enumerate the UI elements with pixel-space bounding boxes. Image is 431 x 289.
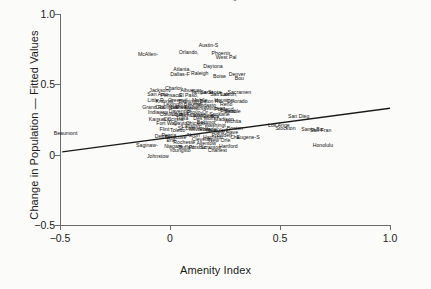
data-point-label: Stockton [275,126,295,131]
data-point-label: Colorado [227,99,248,104]
data-point-label: Austin-S [199,44,219,49]
x-tick [60,225,61,230]
x-axis-label: Amenity Index [0,264,431,276]
data-point-label: Saginaw- [136,143,158,148]
data-point-label: Erie [166,139,175,144]
data-point-label: West Pal [216,56,237,61]
data-point-label: Peoria [161,133,176,138]
y-axis-line [60,14,61,225]
data-point-label: San Dieg [288,115,309,120]
data-point-label: Harrisbu [203,136,223,141]
data-point-label: Bou [235,77,244,82]
data-point-label: Orlando, [179,50,199,55]
y-tick [55,14,60,15]
data-point-label: Daytona [203,64,222,69]
data-point-label: Las Vega [217,0,239,1]
x-tick-label: 0.5 [273,232,288,244]
x-tick-label: 0 [167,232,173,244]
data-point-label: Akron [186,133,200,138]
data-point-label: Johnstow [147,154,169,159]
data-point-label: San Fran [310,129,331,134]
data-point-label: Eugene-S [237,136,260,141]
data-point-label: Hartford [219,144,238,149]
y-tick [55,155,60,156]
data-point-label: Rocheste [173,140,195,145]
y-axis-label: Change in Population — Fitted Values [28,5,40,245]
data-point-label: Honolulu [313,143,333,148]
data-point-label: Little R [148,98,164,103]
y-tick-label: 1.0 [40,8,55,20]
y-tick-label: 0.5 [40,78,55,90]
y-tick-label: 0 [49,149,55,161]
data-point-label: Sacramen [227,91,251,96]
x-axis-line [60,225,390,226]
data-point-label: Lexingto [163,102,183,107]
x-tick [390,225,391,230]
data-point-label: Spokane [209,112,229,117]
scatter-plot-figure: Change in Population — Fitted Values Ame… [0,0,431,289]
data-point-label: Youngsto [169,149,190,154]
data-point-label: McAllen- [138,53,158,58]
data-point-label: Boston [227,126,243,131]
data-point-label: Beaumont [54,132,78,137]
x-tick-label: −0.5 [50,232,71,244]
x-tick [280,225,281,230]
y-tick-label: −0.5 [34,219,55,231]
x-tick [170,225,171,230]
y-tick [55,84,60,85]
data-point-label: Davenpor [169,109,192,114]
data-point-label: Allentow [196,142,216,147]
data-point-label: Raleigh [191,71,209,76]
data-point-label: Boise [213,74,226,79]
data-point-label: Tulsa [176,116,189,121]
plot-area: −0.500.51.0 −0.500.51.0 Las VegaAustin-S… [60,14,390,225]
data-point-label: Madison [214,118,234,123]
data-point-label: Dallas-F [170,73,189,78]
x-tick-label: 1.0 [383,232,398,244]
